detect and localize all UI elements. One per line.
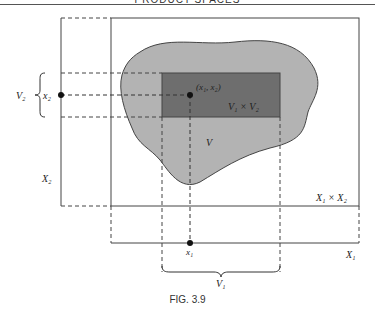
label-product-space: X₁ × X₂ — [315, 192, 347, 203]
label-point-x1-x2: (x₁, x₂) — [196, 82, 221, 92]
label-brace-v2: V₂ — [16, 90, 26, 101]
inner-rect-v1xv2 — [162, 73, 280, 117]
point-x2 — [58, 92, 64, 98]
label-inner-rect: V₁ × V₂ — [228, 101, 259, 112]
figure-caption: FIG. 3.9 — [0, 294, 375, 305]
label-brace-v1: V₁ — [216, 278, 226, 289]
product-space-diagram: X₁ × X₂ X₁ X₂ V V₁ × V₂ (x₁, x₂) x₁ x₂ V… — [0, 0, 375, 319]
point-x1-x2 — [187, 92, 193, 98]
label-axis-x1: X₁ — [345, 249, 356, 260]
label-axis-x2: X₂ — [41, 173, 52, 184]
brace-v1 — [162, 266, 280, 277]
label-point-x2: x₂ — [42, 90, 51, 101]
point-x1 — [187, 240, 193, 246]
label-point-x1: x₁ — [185, 247, 193, 257]
